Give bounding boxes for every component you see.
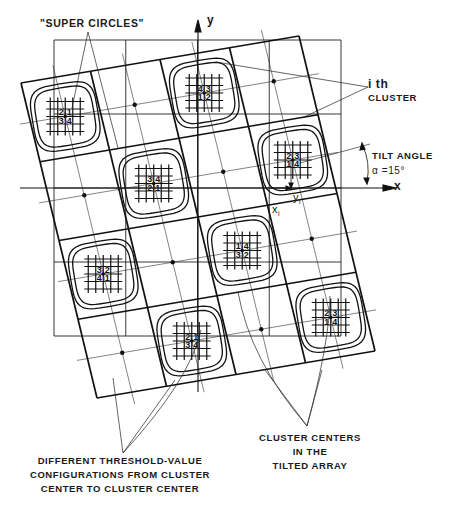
- pixel-grid: 3421: [135, 165, 173, 203]
- different-line3: CENTER TO CLUSTER CENTER: [25, 482, 215, 496]
- cluster: 2134: [27, 78, 103, 154]
- tilted-grid-line: [21, 36, 299, 83]
- threshold-value: 3: [185, 340, 190, 350]
- cluster-center-dot: [221, 170, 225, 174]
- ith-cluster-line2: CLUSTER: [368, 91, 417, 104]
- cluster-center-dot: [259, 327, 263, 331]
- cluster-centers-label: CLUSTER CENTERS IN THE TILTED ARRAY: [250, 431, 370, 473]
- cluster-center-dot: [190, 339, 194, 343]
- ith-cluster-line1: i th: [368, 77, 388, 91]
- tilted-cluster-array-diagram: 21344312342123143241143221342314: [0, 0, 450, 505]
- pixel-grid: 2134: [173, 322, 211, 360]
- cluster: 3241: [65, 236, 141, 312]
- cluster: 3421: [116, 145, 192, 221]
- pixel-grid: 3241: [84, 255, 122, 293]
- pixel-grid: 2314: [274, 141, 312, 179]
- pixel-grid: 2314: [312, 299, 350, 337]
- different-configurations-label: DIFFERENT THRESHOLD-VALUE CONFIGURATIONS…: [25, 454, 215, 496]
- threshold-value: 3: [59, 116, 64, 126]
- yi-sub: i: [299, 198, 301, 205]
- cluster-center-dot: [240, 249, 244, 253]
- tilted-grid-line: [97, 351, 375, 398]
- centers-line2: IN THE: [250, 445, 370, 459]
- cluster-center-dot: [329, 316, 333, 320]
- super-circles-label: "SUPER CIRCLES": [40, 17, 144, 29]
- centers-line1: CLUSTER CENTERS: [250, 431, 370, 445]
- pixel-grid: 1432: [223, 232, 261, 270]
- cluster-center-dot: [171, 260, 175, 264]
- cluster-center-dot: [202, 91, 206, 95]
- tilt-angle-text: TILT ANGLE: [372, 148, 433, 163]
- centers-line3: TILTED ARRAY: [250, 459, 370, 473]
- pixel-grid: 2134: [46, 98, 84, 136]
- cluster: 2134: [154, 303, 230, 379]
- threshold-value: 4: [67, 116, 72, 126]
- threshold-value: 4: [97, 273, 102, 283]
- cluster-center-dot: [291, 158, 295, 162]
- cluster: 2314: [255, 122, 331, 198]
- leader-line: [72, 32, 88, 108]
- cluster-center-dot: [133, 103, 137, 107]
- threshold-value: 1: [286, 159, 291, 169]
- cluster-center-dot: [272, 79, 276, 83]
- y-axis-label: y: [207, 13, 214, 27]
- alpha-value: α =15°: [372, 163, 433, 178]
- threshold-value: 4: [332, 317, 337, 327]
- threshold-value: 4: [294, 159, 299, 169]
- x-axis-label: x: [394, 179, 401, 193]
- leader-lines: [72, 32, 368, 453]
- y-axis-arrow-icon: [195, 20, 201, 32]
- cluster: 4312: [166, 55, 242, 131]
- tilt-reference-line: [300, 144, 370, 163]
- threshold-value: 2: [206, 92, 211, 102]
- threshold-value: 3: [236, 250, 241, 260]
- xi-sub: i: [278, 210, 280, 217]
- cluster-center-dot: [120, 351, 124, 355]
- leader-line: [123, 380, 175, 453]
- cluster-center-dot: [152, 182, 156, 186]
- cluster-center-dot: [63, 115, 67, 119]
- different-line2: CONFIGURATIONS FROM CLUSTER: [25, 468, 215, 482]
- yi-label: yi: [293, 191, 301, 205]
- cluster-center-dot: [310, 237, 314, 241]
- tilt-angle-label: TILT ANGLE α =15°: [372, 148, 433, 178]
- cluster-center-dot: [101, 272, 105, 276]
- leader-line: [265, 370, 307, 426]
- pixel-grid: 4312: [185, 74, 223, 112]
- different-line1: DIFFERENT THRESHOLD-VALUE: [25, 454, 215, 468]
- cluster-center-dot: [82, 193, 86, 197]
- threshold-value: 2: [244, 250, 249, 260]
- tilt-arc-arrow-icon: [364, 178, 369, 184]
- xi-label: xi: [272, 203, 280, 217]
- leader-line: [113, 378, 123, 453]
- threshold-value: 1: [105, 273, 110, 283]
- ith-cluster-label: i th CLUSTER: [368, 78, 417, 104]
- cluster: 2314: [293, 279, 369, 355]
